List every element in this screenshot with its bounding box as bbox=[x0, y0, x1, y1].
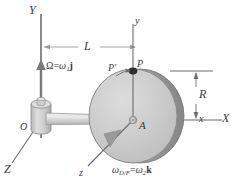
axis-label-Y: Y bbox=[29, 4, 36, 16]
axis-label-z-local: z bbox=[79, 168, 83, 178]
frame-angular-velocity-label: Ω=ω1j bbox=[46, 61, 73, 73]
axis-label-x-local: x bbox=[199, 114, 203, 124]
hub-pin bbox=[129, 116, 136, 123]
axis-label-Z: Z bbox=[4, 163, 11, 175]
axis-label-y-local: y bbox=[135, 16, 139, 26]
disk-omega-unit-vector: k bbox=[146, 164, 152, 175]
disk-omega-magnitude: ω bbox=[136, 164, 143, 175]
point-label-P-prime: P' bbox=[108, 63, 116, 73]
point-label-A: A bbox=[139, 120, 146, 131]
disk-omega-subscript: D/F bbox=[119, 169, 130, 176]
kinematics-figure: Y X Z y x z O A P P' L R Ω=ω1j ωD/F=ω2k bbox=[0, 0, 236, 191]
point-label-P: P bbox=[137, 59, 143, 69]
point-label-O: O bbox=[20, 122, 27, 132]
disk-angular-velocity-label: ωD/F=ω2k bbox=[112, 165, 152, 177]
disk-omega-symbol: ω bbox=[112, 164, 119, 175]
axis-label-X: X bbox=[222, 112, 229, 124]
dimension-label-R: R bbox=[199, 88, 206, 100]
dimension-label-L: L bbox=[84, 40, 91, 52]
frame-omega-unit-vector: j bbox=[70, 60, 73, 71]
